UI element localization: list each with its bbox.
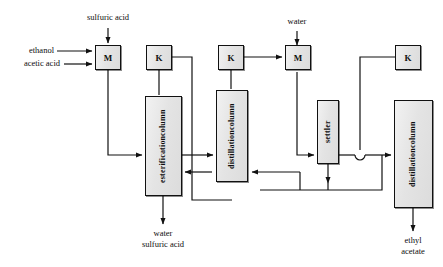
distillation-column-2-label-line1: distillation (409, 148, 417, 187)
kettle-1-label: K (147, 46, 171, 69)
kettle-1[interactable]: K (146, 45, 172, 70)
esterification-column-label: esterification column (146, 97, 181, 195)
kettle-3-label: K (396, 46, 420, 69)
line-kettle3-to-distillation2 (360, 57, 395, 150)
distillation-column-2-label: distillation column (395, 101, 432, 207)
label-esterification-bottoms: water sulfuric acid (113, 228, 213, 249)
label-acetic-acid-feed: acetic acid (0, 58, 60, 69)
settler-label-line1: settler (324, 121, 332, 144)
label-product-ethyl-acetate: ethyl acetate (383, 235, 443, 256)
label-esterification-bottoms-line1: water (113, 228, 213, 239)
label-ethanol-feed: ethanol (6, 45, 54, 56)
distillation-column-2-label-line2: column (409, 121, 417, 148)
distillation-column-1[interactable]: distillation column (216, 90, 248, 182)
kettle-2-label: K (219, 46, 243, 69)
settler-label: settler (318, 101, 338, 163)
esterification-column-label-line2: column (159, 109, 167, 136)
kettle-3[interactable]: K (395, 45, 421, 70)
line-mixer1-to-esterification (108, 70, 142, 155)
line-settler-to-distillation2-jump (355, 155, 365, 160)
kettle-2[interactable]: K (218, 45, 244, 70)
label-product-line1: ethyl (383, 235, 443, 246)
process-flow-diagram: M K K M K esterification column distilla… (0, 0, 443, 267)
esterification-column[interactable]: esterification column (145, 96, 182, 196)
mixer-2[interactable]: M (285, 45, 311, 70)
distillation-column-1-label-line1: distillation (228, 130, 236, 169)
label-sulfuric-acid-feed: sulfuric acid (68, 12, 148, 23)
esterification-column-label-line1: esterification (159, 136, 167, 183)
distillation-column-2[interactable]: distillation column (394, 100, 433, 208)
settler[interactable]: settler (317, 100, 339, 164)
mixer-2-label: M (286, 46, 310, 69)
label-product-line2: acetate (383, 246, 443, 257)
line-mixer2-to-settler (297, 72, 314, 155)
mixer-1[interactable]: M (95, 45, 121, 70)
mixer-1-label: M (96, 46, 120, 69)
label-esterification-bottoms-line2: sulfuric acid (113, 239, 213, 250)
distillation-column-1-label-line2: column (228, 103, 236, 130)
label-water-feed: water (272, 16, 322, 27)
distillation-column-1-label: distillation column (217, 91, 247, 181)
